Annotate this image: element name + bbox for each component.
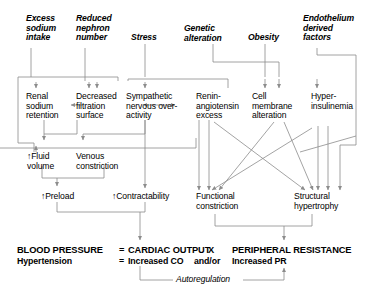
node-renal-sodium-retention: Renal sodium retention [26, 92, 59, 121]
node-structural-hypertrophy: Structural hypertrophy [294, 192, 338, 211]
source-line: Stress [131, 33, 157, 43]
node-sympathetic-nervous-overactivity: Sympathetic nervous over- activity [126, 92, 177, 121]
equation-row2-operator: and/or [194, 257, 220, 267]
source-stress: Stress [131, 33, 157, 43]
node-hyperinsulinemia: Hyper- insulinemia [311, 92, 353, 111]
source-reduced-nephron-number: Reduced nephron number [76, 14, 112, 43]
source-line: alteration [184, 34, 222, 44]
node-line: constriction [196, 202, 238, 212]
source-line: Obesity [248, 33, 279, 43]
node-line: excess [196, 111, 239, 121]
equation-row1-cardiac-output: CARDIAC OUTPUT [128, 246, 210, 256]
node-fluid-volume: ↑Fluid volume [27, 152, 54, 171]
source-endothelium-derived-factors: Endothelium derived factors [303, 14, 354, 43]
node-line: surface [76, 111, 117, 121]
source-line: factors [303, 33, 354, 43]
node-line: alteration [252, 111, 292, 121]
node-contractability: ↑Contractability [112, 192, 169, 202]
node-line: volume [27, 162, 54, 172]
equation-row2-hypertension: Hypertension [17, 257, 72, 267]
node-line: constriction [76, 162, 118, 172]
node-line: insulinemia [311, 102, 353, 112]
diagram-canvas: Excess sodium intake Reduced nephron num… [0, 0, 372, 299]
source-obesity: Obesity [248, 33, 279, 43]
node-line: ↑Contractability [112, 192, 169, 202]
node-line: ↑Preload [41, 192, 74, 202]
source-line: intake [26, 33, 56, 43]
node-line: activity [126, 111, 177, 121]
node-line: retention [26, 111, 59, 121]
node-preload: ↑Preload [41, 192, 74, 202]
node-renin-angiotensin-excess: Renin- angiotensin excess [196, 92, 239, 121]
node-cell-membrane-alteration: Cell membrane alteration [252, 92, 292, 121]
autoregulation-label: Autoregulation [176, 275, 230, 285]
equation-row1-equals: = [119, 246, 124, 256]
source-excess-sodium-intake: Excess sodium intake [26, 14, 56, 43]
equation-row2-increased-co: Increased CO [128, 257, 184, 267]
node-line: hypertrophy [294, 202, 338, 212]
equation-row2-equals: = [119, 257, 124, 267]
node-decreased-filtration-surface: Decreased filtration surface [76, 92, 117, 121]
equation-row1-blood-pressure: BLOOD PRESSURE [17, 246, 103, 256]
equation-row2-increased-pr: Increased PR [232, 257, 287, 267]
source-line: number [76, 33, 112, 43]
node-venous-constriction: Venous constriction [76, 152, 118, 171]
equation-row1-operator: X [208, 246, 214, 256]
node-functional-constriction: Functional constriction [196, 192, 238, 211]
source-genetic-alteration: Genetic alteration [184, 24, 222, 43]
equation-row1-peripheral-resistance: PERIPHERAL RESISTANCE [232, 246, 351, 256]
